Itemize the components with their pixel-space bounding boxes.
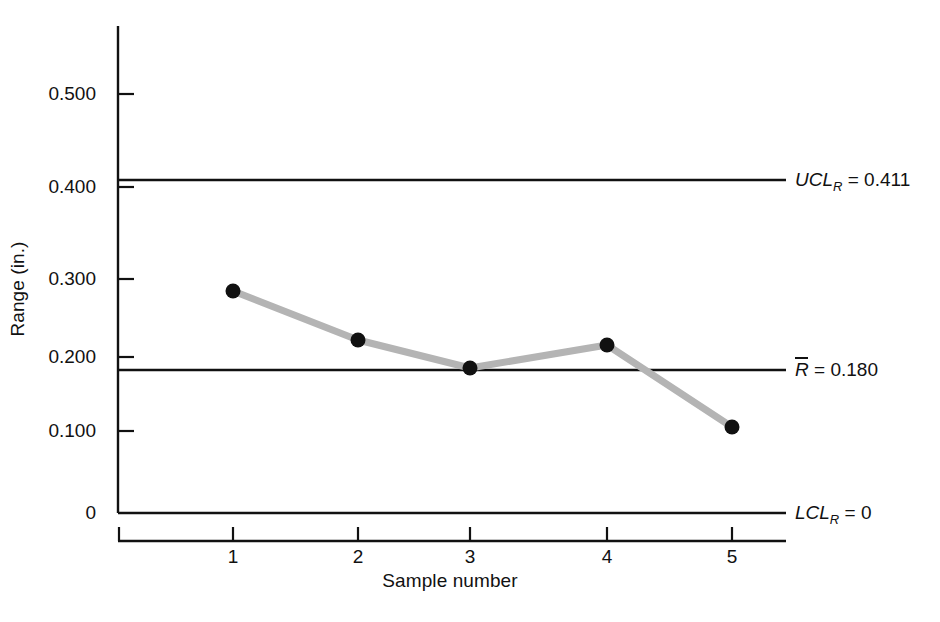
range-series-line (233, 291, 732, 427)
y-tick-label-0400: 0.400 (16, 176, 96, 198)
x-tick-label-1: 1 (213, 546, 253, 568)
data-point-2[interactable] (351, 333, 366, 348)
ucl-equals: = (848, 169, 859, 190)
rbar-value: 0.180 (830, 359, 878, 380)
ucl-symbol: UCL (795, 169, 833, 190)
x-axis-ticks (119, 527, 732, 541)
data-point-1[interactable] (226, 284, 241, 299)
y-tick-label-0200: 0.200 (16, 346, 96, 368)
rbar-symbol: R (795, 359, 809, 381)
y-tick-label-0500: 0.500 (16, 83, 96, 105)
data-point-5[interactable] (725, 420, 740, 435)
x-tick-label-2: 2 (338, 546, 378, 568)
lcl-value: 0 (861, 502, 872, 523)
data-point-3[interactable] (463, 361, 478, 376)
x-tick-label-5: 5 (712, 546, 752, 568)
x-axis-title: Sample number (340, 570, 560, 592)
lcl-symbol: LCL (795, 502, 830, 523)
lcl-equals: = (845, 502, 856, 523)
chart-plot-area (0, 0, 940, 622)
y-axis-ticks (118, 94, 134, 431)
ucl-subscript: R (833, 179, 842, 194)
lcl-annotation: LCLR = 0 (795, 502, 872, 527)
x-tick-label-3: 3 (450, 546, 490, 568)
range-series-markers (226, 284, 740, 435)
lcl-subscript: R (830, 512, 839, 527)
y-tick-label-0100: 0.100 (16, 420, 96, 442)
rbar-equals: = (814, 359, 825, 380)
center-line-annotation: R = 0.180 (795, 359, 878, 381)
data-point-4[interactable] (600, 338, 615, 353)
x-tick-label-4: 4 (587, 546, 627, 568)
y-tick-label-0: 0 (16, 502, 96, 524)
y-tick-label-0300: 0.300 (16, 268, 96, 290)
ucl-annotation: UCLR = 0.411 (795, 169, 910, 194)
ucl-value: 0.411 (864, 169, 910, 190)
range-control-chart: Range (in.) 0.500 0.400 0.300 0.200 0.10… (0, 0, 940, 622)
